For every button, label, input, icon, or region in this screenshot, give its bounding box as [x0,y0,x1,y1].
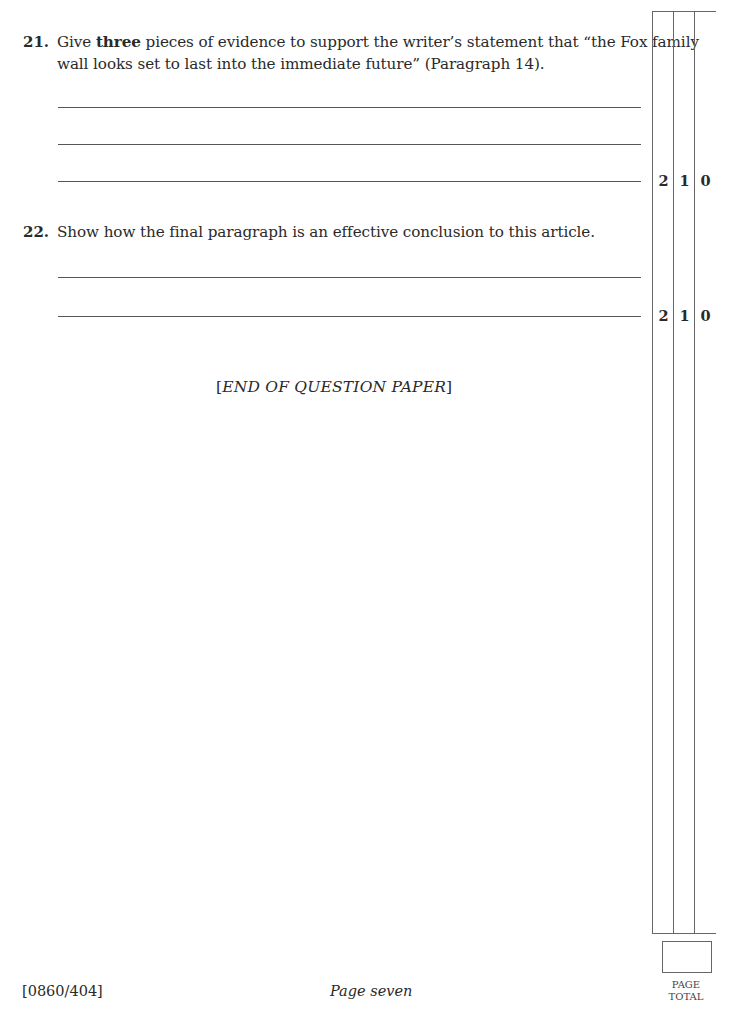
margin-column-rule-1 [652,11,653,933]
page-total-label: PAGE TOTAL [655,979,717,1003]
answer-line-22-1[interactable] [58,277,641,278]
question-22-number: 22. [23,223,49,241]
margin-column-rule-3 [694,11,695,933]
mark-22-0[interactable]: 0 [695,307,716,324]
margin-column-rule-2 [673,11,674,933]
answer-line-21-3[interactable] [58,181,641,182]
margin-top-rule [652,11,716,12]
paper-code: [0860/404] [22,983,103,999]
mark-22-2[interactable]: 2 [653,307,674,324]
margin-bottom-rule [652,933,716,934]
question-21-number: 21. [23,33,49,51]
question-21-line-2: wall looks set to last into the immediat… [57,53,647,75]
mark-21-0[interactable]: 0 [695,172,716,189]
emphasis-three: three [96,33,141,51]
page-total-box[interactable] [662,941,712,973]
end-of-paper-note: [END OF QUESTION PAPER] [216,378,452,396]
mark-21-2[interactable]: 2 [653,172,674,189]
question-22-text: Show how the final paragraph is an effec… [57,221,595,243]
answer-line-21-2[interactable] [58,144,641,145]
mark-22-1[interactable]: 1 [674,307,695,324]
question-21-text: Give three pieces of evidence to support… [57,31,647,75]
question-21-line-1: Give three pieces of evidence to support… [57,31,647,53]
page-number: Page seven [330,983,412,999]
mark-21-1[interactable]: 1 [674,172,695,189]
answer-line-22-2[interactable] [58,316,641,317]
answer-line-21-1[interactable] [58,107,641,108]
